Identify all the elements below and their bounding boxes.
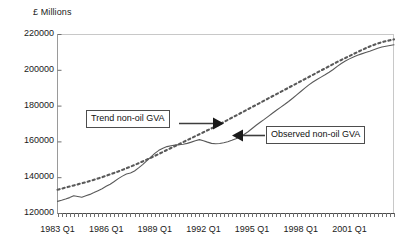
x-axis-tick-label: 1989 Q1 [138, 224, 173, 234]
chart-container: £ Millions 12000014000016000018000020000… [0, 0, 411, 249]
x-axis-tick-label: 1983 Q1 [40, 224, 75, 234]
x-axis-tick-label: 1995 Q1 [235, 224, 270, 234]
x-axis-tick-label: 2001 Q1 [332, 224, 367, 234]
x-axis-tick-label: 1998 Q1 [283, 224, 318, 234]
observed-annotation-label: Observed non-oil GVA [266, 126, 365, 144]
x-axis-tick-labels: 1983 Q11986 Q11989 Q11992 Q11995 Q11998 … [0, 0, 411, 249]
trend-annotation-label: Trend non-oil GVA [86, 110, 170, 128]
x-axis-tick-label: 1986 Q1 [89, 224, 124, 234]
x-axis-tick-label: 1992 Q1 [186, 224, 221, 234]
